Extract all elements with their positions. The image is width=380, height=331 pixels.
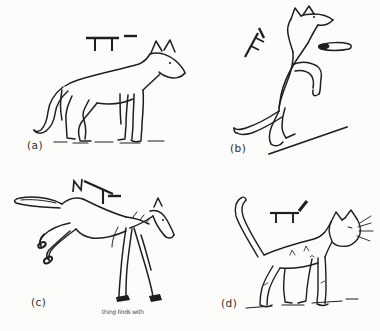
dog-throat	[308, 25, 318, 43]
cat-back	[264, 233, 324, 255]
dog-raised-foreleg-outer	[294, 62, 321, 94]
dog-right-ear	[164, 40, 175, 52]
dog-head-top	[150, 53, 185, 73]
dog-muzzle	[159, 72, 185, 78]
cat-hind-paw-far	[285, 302, 292, 303]
dog-front-leg-near-back	[132, 94, 134, 139]
horse-hoof-2	[149, 294, 162, 302]
symbol-dash	[259, 28, 264, 38]
horse-shoulder-line	[112, 227, 118, 247]
panel-d-label: (d)	[221, 297, 237, 309]
dog-front-paw-near	[131, 140, 141, 142]
posture-symbol-b-icon	[245, 28, 264, 57]
dog-front-leg-near-front	[141, 90, 143, 140]
panel-d: (d)	[190, 165, 380, 331]
panel-c-label: (c)	[31, 296, 46, 308]
cat-tail-outer	[235, 198, 258, 257]
cat-left-ear	[331, 212, 342, 222]
handwritten-note: thing finds with	[102, 308, 183, 315]
dog-raised-paw	[313, 90, 319, 96]
horse-front-leg-1-back	[126, 229, 132, 296]
cat-standing-icon	[235, 197, 373, 306]
slope-ground-line	[269, 127, 347, 154]
dog-jaw	[318, 20, 333, 25]
dog-hind-leg-near-back	[79, 103, 97, 140]
dog-hind-leg-near-front	[83, 100, 89, 139]
posture-symbol-a-icon	[86, 36, 137, 51]
dog-muzzle-top	[314, 14, 333, 20]
dog-eye	[313, 16, 315, 18]
cat-right-ear	[345, 210, 357, 219]
dog-throat	[143, 74, 160, 90]
dog-hind-leg-far-back	[61, 90, 63, 120]
dog-rearing-drawing	[190, 0, 380, 165]
dog-hind-paw-far	[67, 138, 75, 139]
scanned-figure-page: (a)	[0, 0, 380, 331]
horse-back	[83, 199, 126, 217]
horse-flank	[76, 229, 92, 238]
dog-hind-leg-far	[282, 108, 286, 138]
cat-standing-drawing	[190, 165, 380, 331]
horse-cheek	[153, 216, 164, 235]
cat-throat	[325, 242, 332, 257]
horse-eye	[162, 219, 164, 221]
dog-back	[65, 54, 150, 86]
cat-front-paw-near	[317, 304, 328, 306]
cat-front-leg-near-back	[317, 258, 318, 303]
cat-tail-tip	[241, 197, 246, 200]
horse-rump	[62, 198, 83, 204]
cat-tail-inner	[242, 200, 264, 255]
horse-front-leg-1-front	[119, 228, 126, 297]
cat-crown	[342, 218, 345, 220]
panel-a: (a)	[0, 0, 190, 165]
dog-hind-leg-far-front	[66, 96, 72, 137]
dog-standing-icon	[34, 40, 185, 142]
horse-bucking-icon	[15, 197, 174, 302]
panel-b-label: (b)	[230, 142, 246, 154]
dog-left-ear	[151, 41, 162, 53]
dog-rearing-icon	[234, 6, 351, 146]
cat-front-paw-far	[298, 301, 306, 303]
horse-kick-hoof-2	[37, 241, 46, 249]
horse-front-leg-2-back	[141, 235, 151, 270]
panel-b: (b)	[190, 0, 380, 165]
symbol-tick-1	[251, 46, 259, 50]
horse-front-leg-2-front	[134, 228, 153, 297]
horse-belly	[92, 231, 126, 238]
panel-c: (c) thing finds with	[0, 165, 190, 331]
cat-hind-leg-far	[284, 269, 285, 301]
symbol-tick-2	[256, 38, 264, 42]
dog-tail-outer	[34, 87, 63, 132]
dog-hind-foot-far	[286, 134, 295, 138]
dog-chest	[294, 43, 308, 64]
dog-tail-inner	[46, 91, 68, 131]
horse-ear	[154, 198, 162, 207]
symbol-diagonal-body-bar	[245, 33, 258, 57]
dog-nape	[288, 19, 293, 52]
ground-scribbles-a	[54, 141, 164, 143]
dog-eye	[169, 62, 171, 64]
horse-bucking-drawing	[0, 165, 190, 331]
cat-front-leg-near-front	[325, 257, 326, 304]
symbol-kick-zigzag	[73, 179, 82, 192]
posture-symbol-d-icon	[270, 201, 307, 223]
horse-kicking-leg-1-outer	[49, 229, 76, 260]
dog-front-paw-far	[118, 139, 125, 140]
horse-hoof-1	[116, 295, 130, 302]
cat-eye	[348, 227, 352, 228]
panel-a-label: (a)	[27, 139, 43, 151]
dog-front-leg-far-back	[120, 94, 121, 124]
cat-face	[332, 219, 360, 246]
cat-whiskers	[357, 216, 373, 241]
posture-symbol-c-icon	[73, 179, 121, 204]
dog-left-ear	[291, 8, 301, 19]
dog-raised-foreleg-inner	[295, 71, 314, 88]
ground-scribbles-d	[246, 299, 358, 308]
symbol-raised-tail-stroke	[299, 201, 307, 211]
dog-hind-foot-near	[271, 142, 283, 146]
dog-belly	[279, 64, 294, 111]
symbol-diagonal-body-bar	[84, 181, 113, 194]
cat-belly	[280, 263, 318, 268]
horse-muzzle	[164, 235, 174, 238]
